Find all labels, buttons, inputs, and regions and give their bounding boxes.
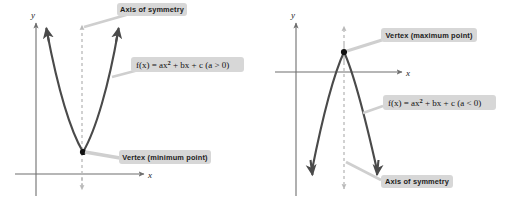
left-formula-label: f(x) = ax2 + bx + c (a > 0) (136, 59, 229, 70)
right-axis-of-symmetry-label: Axis of symmetry (385, 177, 450, 186)
right-vertex-point (341, 49, 347, 55)
right-vertex-label: Vertex (maximum point) (385, 31, 472, 40)
quadratic-functions-figure: y x Axis of symmetry f(x) = ax2 + bx + c… (0, 0, 508, 204)
right-vertex-callout: Vertex (maximum point) (381, 28, 477, 42)
right-formula-prefix: f(x) = ax (388, 98, 420, 108)
right-y-axis-label: y (290, 10, 295, 20)
left-branch-arrow-left (46, 28, 49, 42)
left-vertex-leader (85, 152, 120, 158)
right-vertex-leader (347, 40, 382, 51)
right-formula-suffix: + bx + c (a < 0) (423, 98, 481, 108)
left-vertex-callout: Vertex (minimum point) (119, 150, 211, 164)
left-axis-of-symmetry-label: Axis of symmetry (120, 5, 185, 14)
left-parabola-curve (47, 32, 118, 152)
left-formula-suffix: + bx + c (a > 0) (171, 60, 229, 70)
left-panel: y x Axis of symmetry f(x) = ax2 + bx + c… (0, 0, 244, 196)
right-formula-label: f(x) = ax2 + bx + c (a < 0) (388, 97, 481, 108)
left-formula-callout: f(x) = ax2 + bx + c (a > 0) (131, 57, 244, 72)
right-branch-arrow-right (377, 160, 379, 175)
left-formula-prefix: f(x) = ax (136, 60, 168, 70)
left-x-axis-label: x (147, 170, 152, 180)
right-formula-leader (363, 106, 383, 113)
figure-canvas: y x Axis of symmetry f(x) = ax2 + bx + c… (0, 0, 508, 204)
left-vertex-label: Vertex (minimum point) (122, 153, 208, 162)
right-x-axis-label: x (405, 68, 410, 78)
right-axis-of-symmetry-callout: Axis of symmetry (381, 175, 453, 188)
right-formula-callout: f(x) = ax2 + bx + c (a < 0) (383, 95, 496, 110)
right-branch-arrow-left (311, 160, 313, 175)
left-branch-arrow-right (116, 28, 119, 42)
left-y-axis-label: y (30, 10, 35, 20)
right-panel: y x Vertex (maximum point) f(x) = ax2 + … (275, 10, 496, 196)
left-axis-of-symmetry-callout: Axis of symmetry (117, 3, 187, 16)
